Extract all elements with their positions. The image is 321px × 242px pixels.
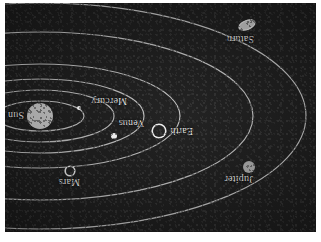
venus-label: Venus xyxy=(119,118,144,128)
earth-body xyxy=(153,125,165,137)
sun-label: Sun xyxy=(8,110,24,120)
mercury-body xyxy=(77,106,81,110)
earth-label: Earth xyxy=(170,126,193,136)
mercury-label: Mercury xyxy=(91,96,127,106)
mars-body xyxy=(66,167,74,175)
solar-system-figure: SunMercuryVenusEarthMarsJupiterSaturn xyxy=(0,0,321,242)
venus-body xyxy=(111,133,117,139)
jupiter-label: Jupiter xyxy=(224,174,253,184)
diagram-plate: SunMercuryVenusEarthMarsJupiterSaturn xyxy=(5,3,316,232)
saturn-label: Saturn xyxy=(227,34,254,44)
jupiter-body xyxy=(243,161,255,173)
mars-label: Mars xyxy=(59,177,80,187)
sun-body xyxy=(27,103,53,129)
rotated-content: SunMercuryVenusEarthMarsJupiterSaturn xyxy=(5,3,316,232)
